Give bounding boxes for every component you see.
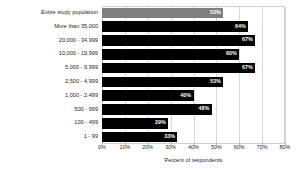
bar: 53%: [102, 77, 223, 88]
bar-value-label: 53%: [210, 10, 221, 15]
bar-wrapper: 40%: [102, 90, 194, 101]
bar-wrapper: 67%: [102, 35, 255, 46]
bar-rows: Entire study population53%More than 35,0…: [0, 6, 296, 144]
bar-wrapper: 53%: [102, 77, 223, 88]
category-label: Entire study population: [0, 10, 98, 16]
bar-wrapper: 67%: [102, 63, 255, 74]
bar: 60%: [102, 49, 239, 60]
bar-wrapper: 29%: [102, 118, 168, 129]
bar-row: 2,500 - 4,99953%: [0, 75, 296, 89]
category-label: 1,000 - 2,499: [0, 93, 98, 99]
x-tick-label: 0%: [98, 145, 106, 150]
bar-wrapper: 64%: [102, 21, 248, 32]
bar-value-label: 64%: [235, 24, 246, 29]
category-label: 5,000 - 9,999: [0, 65, 98, 71]
category-label: 100 - 499: [0, 120, 98, 126]
category-label: 20,000 - 34,999: [0, 38, 98, 44]
x-tick-label: 40%: [188, 145, 199, 150]
bar-wrapper: 53%: [102, 8, 223, 19]
bar-row: Entire study population53%: [0, 6, 296, 20]
category-label: 10,000 - 19,999: [0, 51, 98, 57]
bar-value-label: 67%: [242, 38, 253, 43]
bar-value-label: 33%: [164, 134, 175, 139]
bar: 64%: [102, 21, 248, 32]
bar: 29%: [102, 118, 168, 129]
bar-row: 10,000 - 19,99960%: [0, 47, 296, 61]
x-tick-label: 60%: [234, 145, 245, 150]
x-tick-label: 50%: [211, 145, 222, 150]
category-label: 1 - 99: [0, 134, 98, 140]
bar-value-label: 67%: [242, 65, 253, 70]
bar-row: 100 - 49929%: [0, 116, 296, 130]
bar: 40%: [102, 90, 194, 101]
category-label: 2,500 - 4,999: [0, 79, 98, 85]
category-label: 500 - 999: [0, 107, 98, 113]
x-tick-label: 10%: [119, 145, 130, 150]
bar-value-label: 29%: [155, 121, 166, 126]
x-tick-label: 20%: [142, 145, 153, 150]
bar-value-label: 53%: [210, 79, 221, 84]
bar: 53%: [102, 8, 223, 19]
bar-value-label: 60%: [226, 52, 237, 57]
x-axis: 0%10%20%30%40%50%60%70%80%: [102, 145, 285, 155]
bar-wrapper: 33%: [102, 132, 177, 143]
bar: 67%: [102, 63, 255, 74]
bar: 33%: [102, 132, 177, 143]
bar-wrapper: 48%: [102, 104, 212, 115]
bar: 67%: [102, 35, 255, 46]
x-axis-title: Percent of respondents: [102, 158, 285, 164]
bar-value-label: 40%: [180, 93, 191, 98]
bar: 48%: [102, 104, 212, 115]
x-tick-label: 70%: [257, 145, 268, 150]
category-label: More than 35,000: [0, 24, 98, 30]
bar-value-label: 48%: [199, 107, 210, 112]
x-tick-label: 30%: [165, 145, 176, 150]
bar-row: 5,000 - 9,99967%: [0, 61, 296, 75]
bar-wrapper: 60%: [102, 49, 239, 60]
bar-row: More than 35,00064%: [0, 20, 296, 34]
bar-chart: Entire study population53%More than 35,0…: [0, 0, 296, 172]
bar-row: 1,000 - 2,49940%: [0, 89, 296, 103]
bar-row: 20,000 - 34,99967%: [0, 34, 296, 48]
bar-row: 500 - 99948%: [0, 103, 296, 117]
x-tick-label: 80%: [280, 145, 291, 150]
